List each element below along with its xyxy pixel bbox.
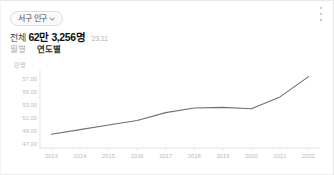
headline-date: ’23.11 [90, 35, 107, 42]
tab-yearly[interactable]: 연도별 [37, 45, 60, 54]
card-top-border [0, 0, 334, 1]
population-stat-card: 서구 인구 전체 62만 3,256명 ’23.11 월별 연도별 만명57.0… [0, 0, 334, 175]
svg-text:2016: 2016 [131, 153, 144, 159]
headline: 전체 62만 3,256명 ’23.11 [10, 29, 108, 44]
svg-text:2013: 2013 [45, 153, 58, 159]
svg-text:2020: 2020 [245, 153, 258, 159]
region-selector-label: 서구 인구 [18, 15, 47, 23]
card-left-border [0, 0, 1, 175]
region-selector-button[interactable]: 서구 인구 [10, 11, 63, 26]
chart-svg: 만명57.0055.0053.0051.0049.0047.0020132014… [14, 58, 326, 168]
headline-value: 62만 3,256명 [28, 29, 85, 44]
svg-text:47.00: 47.00 [22, 141, 37, 147]
svg-text:만명: 만명 [14, 61, 26, 68]
chevron-down-icon [50, 16, 55, 21]
svg-text:49.00: 49.00 [22, 128, 37, 134]
svg-text:2018: 2018 [188, 153, 201, 159]
svg-text:57.00: 57.00 [22, 76, 37, 82]
card-bottom-border [0, 174, 334, 175]
kebab-dot-1 [320, 7, 322, 9]
period-tabs: 월별 연도별 [10, 45, 61, 54]
kebab-dot-3 [320, 19, 322, 21]
svg-text:51.00: 51.00 [22, 115, 37, 121]
headline-prefix: 전체 [10, 31, 25, 44]
svg-text:2022: 2022 [302, 153, 315, 159]
svg-text:53.00: 53.00 [22, 102, 37, 108]
tab-monthly[interactable]: 월별 [10, 45, 25, 54]
population-line-chart[interactable]: 만명57.0055.0053.0051.0049.0047.0020132014… [14, 58, 326, 168]
svg-text:55.00: 55.00 [22, 89, 37, 95]
kebab-menu-icon[interactable] [315, 6, 327, 22]
svg-text:2015: 2015 [102, 153, 115, 159]
svg-text:2014: 2014 [74, 153, 88, 159]
svg-text:2021: 2021 [274, 153, 287, 159]
svg-text:2019: 2019 [216, 153, 229, 159]
kebab-dot-2 [320, 13, 322, 15]
svg-text:2017: 2017 [159, 153, 172, 159]
